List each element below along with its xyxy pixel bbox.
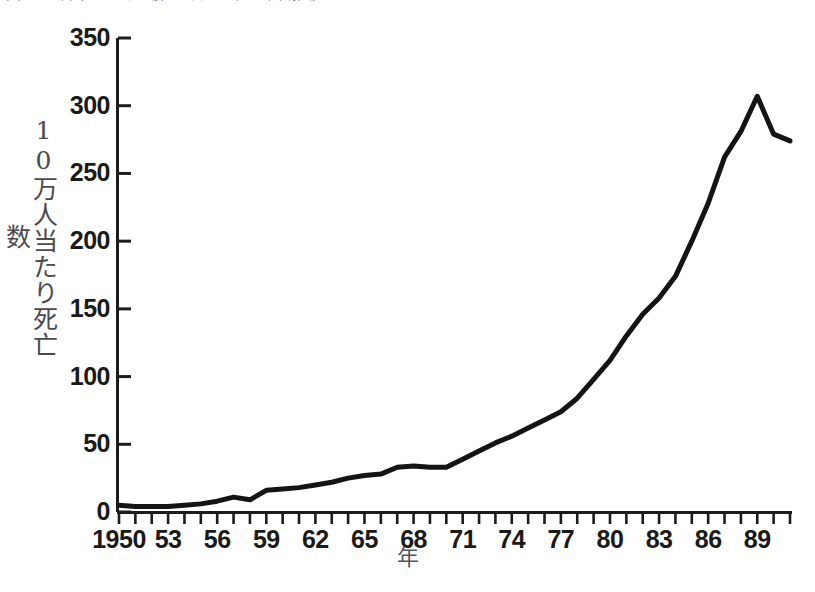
data-series-line [119, 96, 790, 506]
y-axis-tick-label: 150 [52, 296, 110, 321]
chart-plot-area [0, 0, 815, 592]
y-axis-tick-label: 50 [52, 431, 110, 456]
y-axis-tick-dashes [118, 38, 131, 512]
x-axis-tick-label: 89 [712, 527, 802, 552]
y-axis-tick-label: 250 [52, 160, 110, 185]
y-axis-tick-label: 200 [52, 228, 110, 253]
line-chart-figure: 10万人当たり死亡数 年 050100150200250300350 19505… [0, 0, 815, 592]
y-axis-tick-label: 0 [52, 499, 110, 524]
y-axis-tick-label: 350 [52, 25, 110, 50]
axis-lines [117, 38, 792, 513]
y-axis-tick-label: 300 [52, 93, 110, 118]
y-axis-tick-label: 100 [52, 364, 110, 389]
